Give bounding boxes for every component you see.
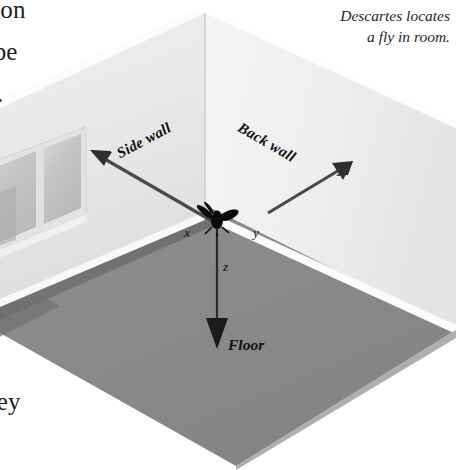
label-floor: Floor: [228, 336, 264, 354]
figure-caption: Descartes locates a fly in room.: [274, 6, 450, 47]
body-text-fragment-3: y.: [0, 80, 4, 108]
caption-line-2: a fly in room.: [274, 27, 450, 48]
label-axis-x: x: [184, 225, 190, 241]
window-mullion: [38, 148, 44, 226]
caption-line-1: Descartes locates: [274, 6, 450, 27]
room-perspective-illustration: [0, 0, 456, 470]
label-axis-y: y: [253, 225, 259, 241]
body-text-fragment-2: ribe: [0, 38, 18, 66]
figure-page: tion ribe y. hey Descartes locates a fly…: [0, 0, 456, 470]
body-text-fragment-1: tion: [0, 0, 26, 24]
label-axis-z: z: [223, 259, 228, 275]
body-text-fragment-4: hey: [0, 388, 21, 416]
